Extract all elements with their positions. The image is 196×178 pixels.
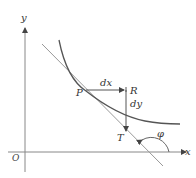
origin-label: O xyxy=(12,153,20,163)
angle-arc xyxy=(142,137,169,152)
x-axis-label: x xyxy=(185,146,191,157)
curve xyxy=(59,40,180,124)
y-axis-label: y xyxy=(20,12,27,23)
point-p-label: P xyxy=(75,87,83,98)
phi-label: φ xyxy=(157,128,164,139)
point-t-label: T xyxy=(117,132,125,143)
dy-label: dy xyxy=(130,98,142,109)
tangent-line xyxy=(42,44,163,166)
dx-label: dx xyxy=(100,77,112,88)
tangent-diagram: y x O P R T dx dy φ xyxy=(0,0,196,178)
point-r-label: R xyxy=(129,85,138,96)
